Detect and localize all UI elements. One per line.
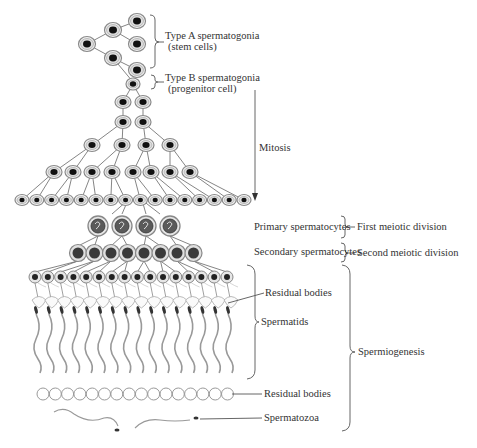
bracket-type-a	[150, 15, 159, 68]
label-type-a-sub: (stem cells)	[168, 41, 217, 53]
label-secondary-spermatocytes: Secondary spermatocytes	[254, 246, 361, 258]
bracket-type-b	[151, 75, 158, 89]
label-spermatozoa: Spermatozoa	[264, 412, 319, 424]
label-first-meiotic-division: First meiotic division	[357, 221, 447, 233]
label-residual-bodies-1: Residual bodies	[265, 287, 332, 299]
label-spermatids: Spermatids	[261, 316, 308, 328]
pointer-spermatozoa	[200, 418, 262, 419]
bracket-spermatids	[247, 265, 259, 379]
label-second-meiotic-division: Second meiotic division	[357, 247, 459, 259]
label-primary-spermatocytes: Primary spermatocytes	[254, 221, 351, 233]
spermatid-tails	[32, 283, 238, 432]
label-type-b-sub: (progenitor cell)	[168, 83, 237, 95]
lineage-lines	[22, 21, 244, 272]
label-residual-bodies-2: Residual bodies	[264, 388, 331, 400]
label-spermiogenesis: Spermiogenesis	[358, 346, 425, 358]
label-mitosis: Mitosis	[259, 142, 291, 154]
bracket-spermiogenesis	[342, 265, 355, 431]
